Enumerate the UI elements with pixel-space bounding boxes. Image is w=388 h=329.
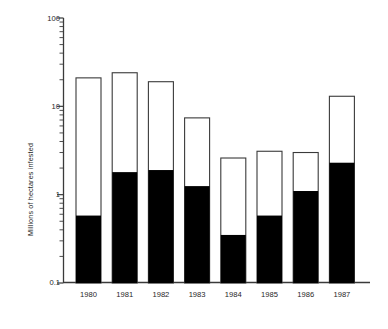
x-tick-label: 1980 <box>69 291 109 299</box>
bar-group <box>76 73 354 283</box>
bar-chart: Millions of hectares infested 100 10 1 0… <box>0 0 388 329</box>
bar-infested <box>221 235 246 283</box>
x-tick-label: 1983 <box>177 291 217 299</box>
bar-infested <box>148 170 173 283</box>
x-tick-label: 1987 <box>322 291 362 299</box>
bar-infested <box>76 216 101 283</box>
x-tick-label: 1985 <box>250 291 290 299</box>
x-tick-label: 1984 <box>213 291 253 299</box>
plot-area <box>0 0 388 329</box>
axis-lines <box>64 18 371 283</box>
bar-infested <box>112 172 137 283</box>
x-tick-label: 1982 <box>141 291 181 299</box>
x-tick-label: 1981 <box>105 291 145 299</box>
bar-infested <box>329 163 354 283</box>
bar-infested <box>185 186 210 283</box>
y-axis-ticks <box>57 18 64 283</box>
bar-infested <box>257 216 282 283</box>
bar-infested <box>293 191 318 283</box>
x-tick-label: 1986 <box>286 291 326 299</box>
